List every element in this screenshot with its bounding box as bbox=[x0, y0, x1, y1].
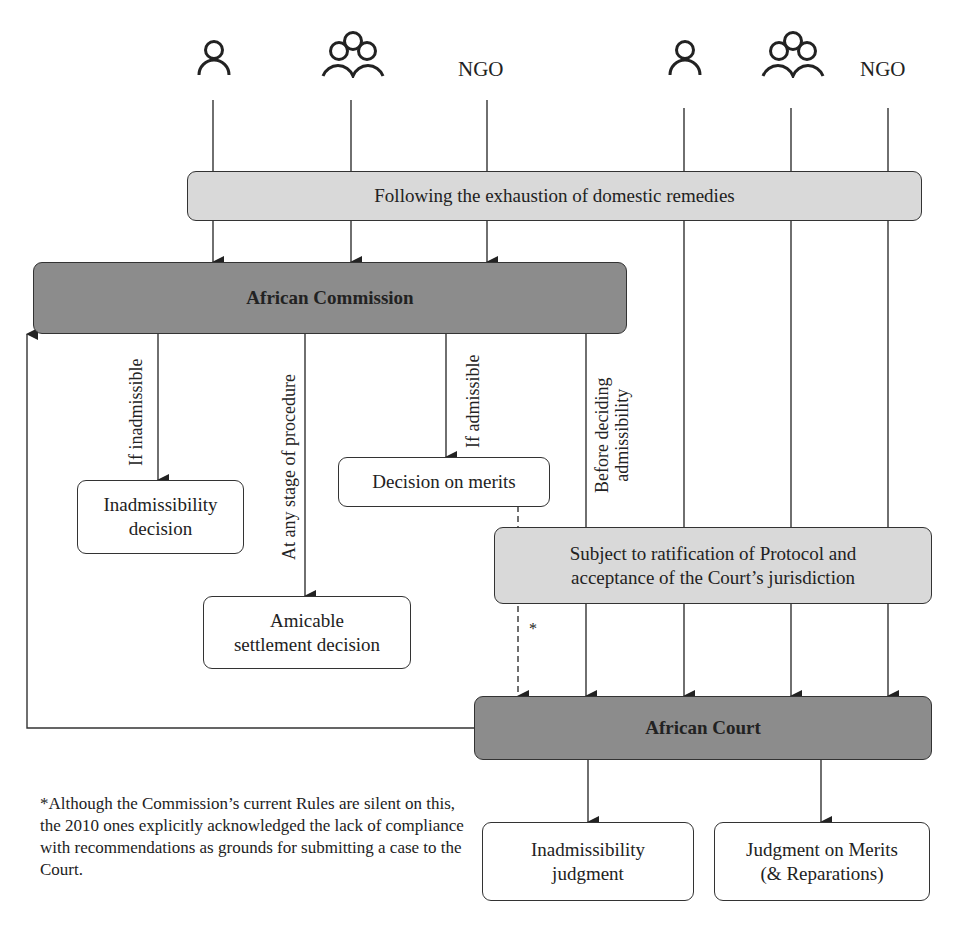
inadmissibility-decision-box: Inadmissibility decision bbox=[77, 480, 244, 554]
box-line: Inadmissibility bbox=[104, 493, 218, 517]
exhaustion-label: Following the exhaustion of domestic rem… bbox=[374, 184, 734, 208]
judgment-on-merits-box: Judgment on Merits (& Reparations) bbox=[714, 822, 930, 901]
box-line: Amicable bbox=[270, 609, 344, 633]
box-line: settlement decision bbox=[234, 633, 380, 657]
decision-on-merits-box: Decision on merits bbox=[338, 457, 550, 507]
actor-ngo-left: NGO bbox=[458, 58, 504, 80]
if-admissible-label: If admissible bbox=[463, 355, 484, 448]
court-label: African Court bbox=[645, 716, 761, 740]
label-line: Before deciding bbox=[592, 378, 612, 493]
actor-ngo-right: NGO bbox=[860, 58, 906, 80]
box-line: acceptance of the Court’s jurisdiction bbox=[571, 566, 855, 590]
box-line: decision bbox=[129, 517, 192, 541]
person-icon bbox=[196, 38, 232, 78]
amicable-settlement-box: Amicable settlement decision bbox=[203, 596, 411, 669]
person-icon bbox=[667, 38, 703, 78]
asterisk-label: * bbox=[529, 618, 537, 640]
group-icon bbox=[320, 30, 386, 78]
label-line: admissibility bbox=[612, 378, 632, 493]
before-deciding-label: Before deciding admissibility bbox=[592, 378, 632, 493]
footnote: *Although the Commission’s current Rules… bbox=[40, 793, 480, 881]
inadmissibility-judgment-box: Inadmissibility judgment bbox=[482, 822, 694, 901]
african-court-box: African Court bbox=[474, 696, 932, 760]
box-line: (& Reparations) bbox=[761, 862, 884, 886]
any-stage-label: At any stage of procedure bbox=[279, 374, 300, 560]
box-line: Judgment on Merits bbox=[746, 838, 898, 862]
box-line: judgment bbox=[552, 862, 624, 886]
box-line: Subject to ratification of Protocol and bbox=[570, 542, 857, 566]
group-icon bbox=[760, 30, 826, 78]
african-commission-box: African Commission bbox=[33, 262, 627, 334]
box-line: Decision on merits bbox=[372, 470, 516, 494]
if-inadmissible-label: If inadmissible bbox=[126, 359, 147, 466]
exhaustion-box: Following the exhaustion of domestic rem… bbox=[187, 171, 922, 221]
subject-to-ratification-box: Subject to ratification of Protocol and … bbox=[494, 527, 932, 604]
commission-label: African Commission bbox=[246, 286, 413, 310]
box-line: Inadmissibility bbox=[531, 838, 645, 862]
